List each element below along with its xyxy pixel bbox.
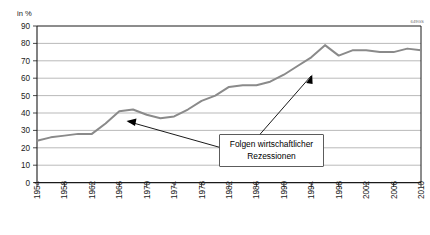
arrow-head-icon [127,119,137,126]
xtick-label: 1986 [252,180,261,199]
xtick-label: 1966 [115,180,124,199]
y-axis-unit-label: in % [17,9,32,18]
xtick-label: 1994 [307,180,316,199]
ytick-label: 20 [21,144,31,153]
ytick-label: 50 [21,92,31,101]
data-series-line [37,45,421,141]
ytick-label: 0 [25,179,30,188]
xtick-label: 1962 [88,180,97,199]
ytick-label: 80 [21,39,31,48]
xtick-label: 1990 [280,180,289,199]
x-axis-tick-labels: 1954 1958 1962 1966 1970 1974 1978 1982 … [33,180,426,199]
ytick-label: 10 [21,161,31,170]
xtick-label: 1982 [225,180,234,199]
line-chart: in % 649GS [0,0,430,235]
ytick-label: 70 [21,57,31,66]
ytick-label: 90 [21,22,31,31]
chart-page: in % 649GS [0,0,430,235]
y-axis-tick-labels: 90 80 70 60 50 40 30 20 10 0 [21,22,31,188]
xtick-label: 1970 [143,180,152,199]
y-axis-ticks [33,26,37,183]
annotation-leader-left [127,119,223,148]
ytick-label: 30 [21,126,31,135]
xtick-label: 2002 [362,180,371,199]
xtick-label: 1974 [170,180,179,199]
annotation-callout: Folgen wirtschaftlicher Rezessionen [220,135,324,167]
annotation-line-2: Rezessionen [247,151,296,161]
ytick-label: 40 [21,109,31,118]
corner-code-label: 649GS [410,19,424,24]
annotation-line-1: Folgen wirtschaftlicher [230,139,314,149]
xtick-label: 1978 [198,180,207,199]
xtick-label: 2006 [390,180,399,199]
arrow-head-icon [306,75,312,84]
xtick-label: 1954 [33,180,42,199]
xtick-label: 1998 [335,180,344,199]
xtick-label: 1958 [60,180,69,199]
xtick-label: 2010 [417,180,426,199]
ytick-label: 60 [21,74,31,83]
